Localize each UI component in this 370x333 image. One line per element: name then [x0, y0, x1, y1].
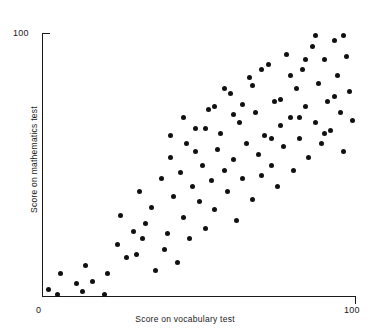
- data-point: [105, 271, 110, 276]
- data-point: [80, 289, 85, 294]
- data-point: [225, 189, 230, 194]
- data-point: [153, 268, 158, 273]
- data-point: [262, 133, 267, 138]
- data-point: [228, 91, 233, 96]
- data-point: [350, 118, 355, 123]
- data-point: [256, 152, 261, 157]
- data-point: [278, 123, 283, 128]
- data-point: [338, 110, 343, 115]
- data-point: [278, 97, 283, 102]
- data-point: [266, 62, 271, 67]
- data-point: [240, 102, 245, 107]
- data-point: [143, 221, 148, 226]
- data-point: [115, 242, 120, 247]
- data-point: [259, 173, 264, 178]
- data-point: [344, 54, 349, 59]
- data-point: [212, 207, 217, 212]
- data-point: [244, 141, 249, 146]
- data-point: [303, 57, 308, 62]
- data-point: [102, 292, 107, 297]
- data-point: [272, 99, 277, 104]
- data-point: [313, 33, 318, 38]
- data-point: [319, 141, 324, 146]
- data-point: [124, 255, 129, 260]
- data-point: [269, 163, 274, 168]
- plot-data-area: [42, 33, 356, 297]
- data-point: [162, 247, 167, 252]
- data-point: [328, 128, 333, 133]
- data-point: [288, 115, 293, 120]
- data-point: [222, 168, 227, 173]
- data-point: [134, 252, 139, 257]
- scatter-plot-figure: 100 0 100 Score on vocabulary test Score…: [0, 0, 370, 333]
- data-point: [83, 263, 88, 268]
- data-point: [212, 104, 217, 109]
- data-point: [306, 155, 311, 160]
- data-point: [137, 189, 142, 194]
- data-point: [171, 194, 176, 199]
- data-point: [168, 133, 173, 138]
- data-point: [58, 271, 63, 276]
- data-point: [215, 147, 220, 152]
- data-point: [284, 52, 289, 57]
- data-point: [332, 94, 337, 99]
- data-point: [332, 38, 337, 43]
- data-point: [288, 73, 293, 78]
- data-point: [193, 149, 198, 154]
- data-point: [203, 126, 208, 131]
- data-point: [168, 155, 173, 160]
- data-point: [231, 157, 236, 162]
- data-point: [275, 184, 280, 189]
- data-point: [200, 163, 205, 168]
- data-point: [46, 287, 51, 292]
- data-point: [291, 168, 296, 173]
- data-point: [325, 99, 330, 104]
- data-point: [240, 176, 245, 181]
- data-point: [55, 292, 60, 297]
- data-point: [341, 149, 346, 154]
- data-point: [347, 89, 352, 94]
- data-point: [190, 184, 195, 189]
- y-axis-tick-label-100: 100: [13, 29, 29, 38]
- data-point: [178, 170, 183, 175]
- data-point: [181, 115, 186, 120]
- data-point: [159, 176, 164, 181]
- data-point: [297, 115, 302, 120]
- data-point: [303, 104, 308, 109]
- x-axis-tick-label-0: 0: [36, 306, 41, 315]
- data-point: [74, 281, 79, 286]
- data-point: [90, 279, 95, 284]
- data-point: [222, 86, 227, 91]
- y-axis-title: Score on mathematics test: [30, 70, 39, 250]
- data-point: [294, 86, 299, 91]
- data-point: [140, 236, 145, 241]
- data-point: [206, 107, 211, 112]
- data-point: [231, 112, 236, 117]
- data-point: [300, 67, 305, 72]
- data-point: [193, 126, 198, 131]
- data-point: [165, 231, 170, 236]
- x-axis-tick-label-100: 100: [344, 306, 360, 315]
- data-point: [175, 260, 180, 265]
- data-point: [234, 218, 239, 223]
- data-point: [131, 229, 136, 234]
- data-point: [335, 73, 340, 78]
- data-point: [237, 120, 242, 125]
- data-point: [322, 131, 327, 136]
- data-point: [269, 136, 274, 141]
- data-point: [322, 57, 327, 62]
- data-point: [316, 81, 321, 86]
- data-point: [197, 199, 202, 204]
- data-point: [250, 197, 255, 202]
- data-point: [209, 178, 214, 183]
- data-point: [203, 226, 208, 231]
- data-point: [253, 110, 258, 115]
- data-point: [149, 205, 154, 210]
- data-point: [184, 141, 189, 146]
- data-point: [187, 236, 192, 241]
- data-point: [310, 44, 315, 49]
- data-point: [313, 120, 318, 125]
- data-point: [281, 144, 286, 149]
- x-axis-title: Score on vocabulary test: [0, 315, 370, 324]
- data-point: [118, 213, 123, 218]
